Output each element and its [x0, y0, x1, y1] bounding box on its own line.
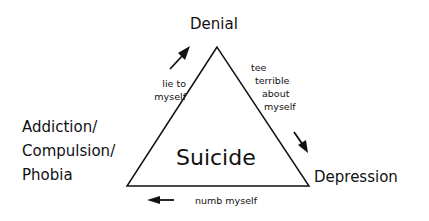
center-label: Suicide [176, 145, 256, 170]
arrow-left-icon [147, 196, 174, 204]
triangle-diagram [0, 0, 429, 221]
edge-label-numb: numb myself [195, 194, 257, 207]
arrow-down-right-icon [294, 132, 308, 153]
vertex-depression: Depression [314, 168, 398, 186]
vertex-addiction: Addiction/ Compulsion/ Phobia [22, 115, 115, 187]
edge-label-terrible: tee terrible about myself [251, 61, 296, 113]
arrow-up-right-icon [170, 46, 190, 69]
vertex-denial: Denial [190, 15, 238, 33]
edge-label-lie: lie to myself [128, 77, 186, 103]
